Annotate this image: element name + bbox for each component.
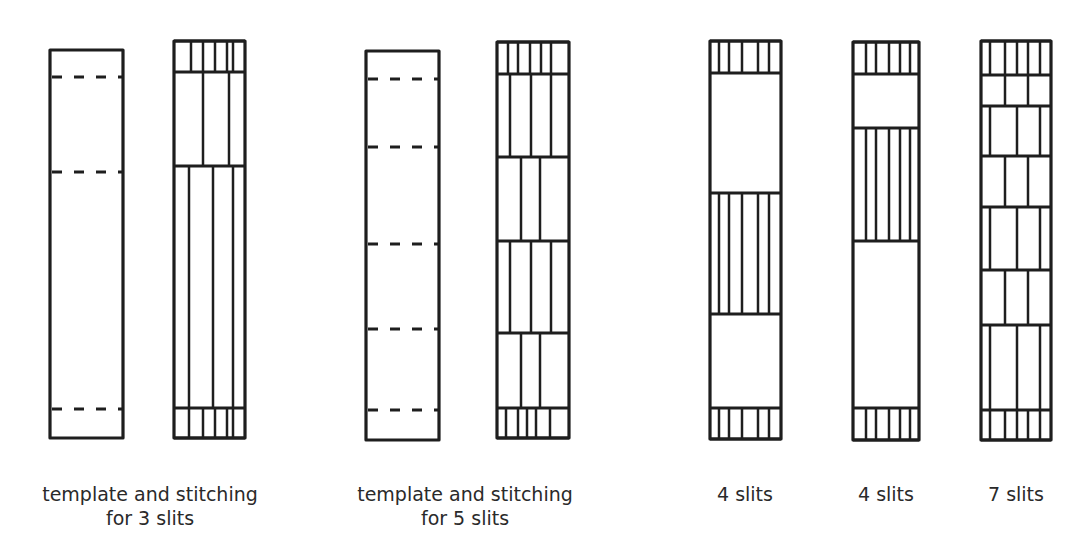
stitching-3-slits-panel <box>174 41 245 438</box>
slit-stitching-diagram <box>0 0 1088 552</box>
caption-4-slits-a: 4 slits <box>695 482 795 506</box>
panel-frame <box>710 41 781 439</box>
panel-frame <box>50 50 123 438</box>
template-3-slits-panel <box>50 50 123 438</box>
caption-7-slits-text: 7 slits <box>966 482 1066 506</box>
slits-7-panel <box>981 41 1051 440</box>
caption-3-slits-line1: template and stitching <box>30 482 270 506</box>
caption-3-slits: template and stitching for 3 slits <box>30 482 270 530</box>
slits-4-b-panel <box>853 42 919 440</box>
caption-5-slits-line2: for 5 slits <box>345 506 585 530</box>
caption-5-slits-line1: template and stitching <box>345 482 585 506</box>
stitching-5-slits-panel <box>497 42 569 438</box>
caption-4-slits-a-text: 4 slits <box>695 482 795 506</box>
template-5-slits-panel <box>366 51 439 440</box>
slits-4-a-panel <box>710 41 781 439</box>
caption-3-slits-line2: for 3 slits <box>30 506 270 530</box>
caption-5-slits: template and stitching for 5 slits <box>345 482 585 530</box>
caption-7-slits: 7 slits <box>966 482 1066 506</box>
caption-4-slits-b-text: 4 slits <box>836 482 936 506</box>
panel-frame <box>174 41 245 438</box>
caption-4-slits-b: 4 slits <box>836 482 936 506</box>
